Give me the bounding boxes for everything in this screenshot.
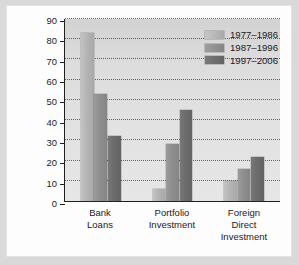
y-axis-tick-mark [60,62,65,63]
y-axis-tick-label: 80 [47,37,57,46]
legend-swatch [205,56,224,64]
y-axis-tick-mark [60,102,65,103]
bar [153,189,166,201]
y-axis-tick-label: 0 [52,199,57,208]
bar [238,169,251,201]
x-axis-category-label: BankLoans [64,207,136,231]
legend-item: 1987–1996 [205,43,278,53]
x-axis-category-label: PortfolioInvestment [136,207,208,231]
x-axis-label-line: Bank [64,207,136,219]
legend-swatch [205,44,224,52]
y-axis-tick-label: 50 [47,98,57,107]
chart-legend: 1977–19861987–19961997–2006 [205,30,278,65]
x-axis-label-line: Direct [208,219,280,231]
y-axis-tick-label: 70 [47,57,57,66]
legend-swatch [205,31,224,39]
bar [251,157,264,201]
bar [81,33,94,201]
bar [108,136,121,201]
y-axis-title: Percentage of International Investment F… [14,0,32,25]
y-axis-tick-label: 30 [47,138,57,147]
y-axis-tick-label: 10 [47,179,57,188]
legend-label: 1977–1986 [230,30,278,40]
y-axis-tick-mark [60,163,65,164]
x-axis-category-label: ForeignDirectInvestment [208,207,280,244]
y-axis-tick-mark [60,82,65,83]
y-axis-tick-mark [60,21,65,22]
legend-item: 1977–1986 [205,30,278,40]
x-axis-labels: BankLoansPortfolioInvestmentForeignDirec… [64,207,280,249]
y-axis-tick-mark [60,204,65,205]
legend-item: 1997–2006 [205,56,278,66]
bar-group [137,19,209,201]
x-axis-label-line: Foreign [208,207,280,219]
bar [180,110,193,201]
bar-chart: Percentage of International Investment F… [18,17,280,245]
plot-wrapper: 0102030405060708090 1977–19861987–199619… [64,19,280,202]
y-axis-tick-mark [60,123,65,124]
x-axis-label-line: Investment [136,219,208,231]
y-axis-tick-mark [60,41,65,42]
x-axis-label-line: Investment [208,231,280,243]
figure-card: Percentage of International Investment F… [7,6,291,256]
x-axis-label-line: Loans [64,219,136,231]
y-axis-tick-mark [60,184,65,185]
legend-label: 1987–1996 [230,43,278,53]
bar [166,144,179,201]
y-axis-tick-label: 20 [47,159,57,168]
x-axis-label-line: Portfolio [136,207,208,219]
bar [94,94,107,201]
y-axis-tick-label: 40 [47,118,57,127]
legend-label: 1997–2006 [230,56,278,66]
y-axis-tick-label: 60 [47,77,57,86]
bar-group [65,19,137,201]
y-axis-tick-label: 90 [47,16,57,25]
bar [224,181,237,201]
y-axis-tick-mark [60,143,65,144]
